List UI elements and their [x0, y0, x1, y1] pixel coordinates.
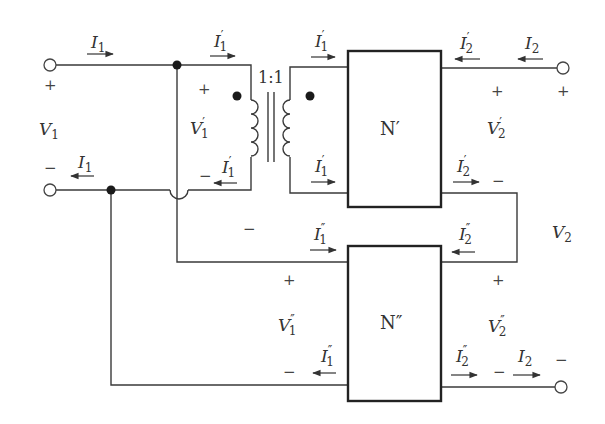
sign-V1-plus: +: [44, 76, 57, 94]
label-V1pp: V″1: [278, 313, 296, 338]
label-I1-top: I1: [90, 32, 105, 55]
network-n-double-prime-label: N″: [380, 312, 403, 333]
secondary-coil: [283, 100, 290, 156]
label-V1: V1: [39, 119, 59, 142]
sign-V2-minus: −: [555, 351, 568, 369]
wire-primary-bottom: [188, 157, 251, 190]
primary-coil: [251, 100, 258, 156]
sign-V2pp-plus: +: [492, 271, 505, 289]
circuit-diagram: 1:1 N′ N″ I1 I1 V1: [0, 0, 605, 424]
polarity-dot-secondary: [306, 92, 315, 101]
label-I2p-bottom: I′2: [456, 154, 470, 179]
label-I1p-primary-top: I′1: [213, 29, 227, 54]
sign-V1p-plus: +: [198, 80, 211, 98]
label-V1p: V′1: [190, 116, 209, 141]
label-V2: V2: [552, 222, 572, 245]
label-V2pp: V″2: [488, 314, 506, 339]
variable-labels: I1 I1 V1 I′1 V′1 I′1 I′1 I′1 I′2 I2 V′2 …: [39, 29, 572, 369]
sign-V1pp-plus: +: [283, 271, 296, 289]
wire-secondary-top: [290, 67, 348, 100]
junction-dot-top: [173, 61, 182, 70]
sign-V1pp-minus: −: [283, 363, 296, 381]
sign-V2p-minus: −: [492, 172, 505, 190]
sign-V2p-plus: +: [491, 82, 504, 100]
label-I1p-secondary-bottom: I′1: [314, 154, 328, 179]
network-n-prime: N′: [348, 51, 441, 207]
terminal-port1-negative: [44, 184, 56, 196]
label-I1-bottom: I1: [77, 152, 92, 175]
wire-input-top: [56, 65, 251, 100]
junction-dot-bottom: [107, 186, 116, 195]
sign-V1p-minus: −: [199, 167, 212, 185]
terminal-port2-positive: [557, 62, 569, 74]
wire-crossover-hop: [170, 190, 188, 199]
sign-V2-plus: +: [557, 82, 570, 100]
network-n-prime-label: N′: [380, 118, 400, 139]
sign-V2pp-minus: −: [493, 363, 506, 381]
label-I2-top: I2: [524, 33, 539, 56]
label-I1pp-top: I″1: [313, 222, 327, 247]
label-I1p-secondary-top: I′1: [314, 29, 328, 54]
transformer-ratio: 1:1: [258, 68, 284, 87]
current-arrows: [71, 54, 543, 375]
label-I2pp-top: I″2: [458, 222, 472, 247]
wires: [56, 65, 557, 387]
sign-V1-minus: −: [44, 159, 57, 177]
label-I2-bottom: I2: [517, 346, 532, 369]
label-I2pp-bottom: I″2: [455, 344, 469, 369]
sign-V1pp-minus-upper: −: [243, 220, 256, 238]
label-I1p-primary-bottom: I′1: [221, 155, 235, 180]
label-I1pp-bottom: I″1: [320, 344, 334, 369]
network-n-double-prime: N″: [348, 246, 441, 401]
transformer: 1:1: [233, 68, 315, 162]
terminal-port1-positive: [44, 59, 56, 71]
wire-bottom-junction-to-n2: [111, 190, 348, 385]
terminal-port2-negative: [555, 381, 567, 393]
polarity-dot-primary: [233, 92, 242, 101]
label-V2p: V′2: [487, 116, 506, 141]
label-I2p-top: I′2: [459, 31, 473, 56]
